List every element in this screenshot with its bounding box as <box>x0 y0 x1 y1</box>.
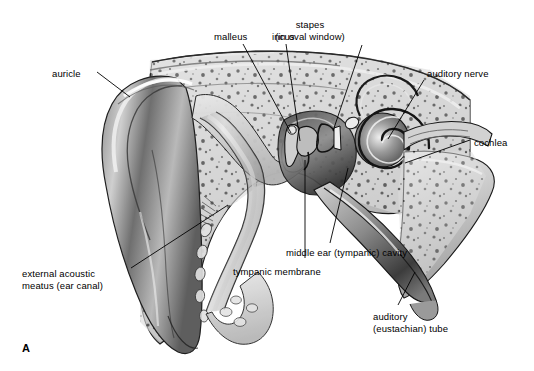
oval-window <box>334 126 341 150</box>
panel-letter: A <box>22 342 30 354</box>
label-external-acoustic-meatus: external acoustic meatus (ear canal) <box>22 268 103 291</box>
label-auditory-nerve: auditory nerve <box>427 68 489 80</box>
label-auditory-tube: auditory (eustachian) tube <box>373 311 448 334</box>
ear-anatomy-figure: auriclemalleusincusstapes (in oval windo… <box>0 0 534 371</box>
ear-anatomy-illustration <box>0 0 534 371</box>
label-stapes: stapes (in oval window) <box>275 19 345 42</box>
label-tympanic-membrane: tympanic membrane <box>233 266 321 278</box>
label-middle-ear-cavity: middle ear (tympanic) cavity <box>286 247 407 259</box>
label-cochlea: cochlea <box>474 137 507 149</box>
label-malleus: malleus <box>214 31 247 43</box>
label-auricle: auricle <box>52 68 81 80</box>
